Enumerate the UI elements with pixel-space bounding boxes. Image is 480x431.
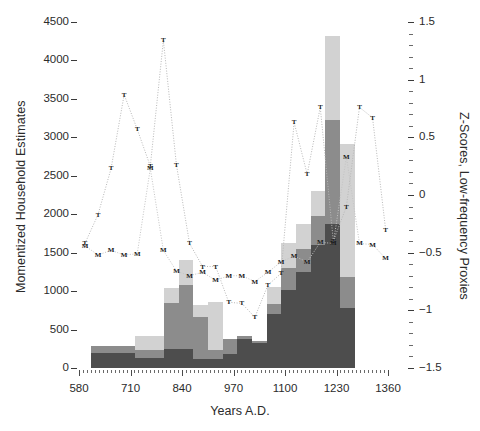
x-axis-minor-tick xyxy=(218,370,219,373)
x-axis-minor-tick xyxy=(142,370,143,373)
x-axis-minor-tick xyxy=(119,370,120,373)
x-axis-minor-tick xyxy=(245,370,246,373)
proxy-marker-M: M xyxy=(225,272,232,279)
y-axis-right-minor-tick xyxy=(409,230,413,231)
y-axis-right-tick-label: −1.5 xyxy=(419,361,465,373)
y-axis-right-tick-mark xyxy=(408,22,414,23)
y-axis-right-minor-tick xyxy=(409,207,413,208)
proxy-marker-T: T xyxy=(134,126,141,133)
x-axis-tick-mark xyxy=(79,370,80,376)
x-axis-minor-tick xyxy=(289,370,290,373)
x-axis-minor-tick xyxy=(293,370,294,373)
proxy-marker-M: M xyxy=(356,240,363,247)
proxy-marker-M: M xyxy=(81,242,88,249)
y-axis-left-tick-label: 4500 xyxy=(23,15,69,27)
x-axis-tick-label: 970 xyxy=(211,382,257,394)
x-axis-tick-mark xyxy=(388,370,389,376)
proxy-line-M xyxy=(85,157,386,282)
y-axis-right-minor-tick xyxy=(409,160,413,161)
proxy-marker-M: M xyxy=(251,278,258,285)
x-axis-minor-tick xyxy=(368,370,369,373)
x-axis-minor-tick xyxy=(297,370,298,373)
proxy-marker-T: T xyxy=(212,263,219,270)
proxy-marker-M: M xyxy=(199,269,206,276)
x-axis-minor-tick xyxy=(178,370,179,373)
x-axis-tick-label: 710 xyxy=(108,382,154,394)
x-axis-minor-tick xyxy=(372,370,373,373)
x-axis-minor-tick xyxy=(253,370,254,373)
y-axis-left-tick-label: 500 xyxy=(23,323,69,335)
y-axis-right-minor-tick xyxy=(409,68,413,69)
x-axis-minor-tick xyxy=(202,370,203,373)
y-axis-right-tick-mark xyxy=(408,253,414,254)
x-axis-minor-tick xyxy=(103,370,104,373)
y-axis-right-minor-tick xyxy=(409,218,413,219)
x-axis-minor-tick xyxy=(301,370,302,373)
proxy-marker-T: T xyxy=(186,240,193,247)
proxy-marker-T: T xyxy=(304,171,311,178)
x-axis-minor-tick xyxy=(127,370,128,373)
proxy-marker-T: T xyxy=(317,104,324,111)
x-axis-tick-mark xyxy=(285,370,286,376)
x-axis-minor-tick xyxy=(384,370,385,373)
y-axis-right-minor-tick xyxy=(409,241,413,242)
y-axis-left-tick-mark xyxy=(71,253,77,254)
y-axis-left-tick-mark xyxy=(71,137,77,138)
proxy-marker-T: T xyxy=(225,299,232,306)
proxy-marker-M: M xyxy=(278,258,285,265)
y-axis-right-minor-tick xyxy=(409,264,413,265)
x-axis-minor-tick xyxy=(166,370,167,373)
x-axis-tick-label: 840 xyxy=(159,382,205,394)
x-axis-tick-mark xyxy=(131,370,132,376)
y-axis-right-minor-tick xyxy=(409,276,413,277)
proxy-marker-M: M xyxy=(369,241,376,248)
x-axis-tick-mark xyxy=(337,370,338,376)
x-axis-minor-tick xyxy=(107,370,108,373)
y-axis-right-minor-tick xyxy=(409,114,413,115)
x-axis-minor-tick xyxy=(305,370,306,373)
proxy-line-T xyxy=(85,40,386,317)
x-axis-tick-mark xyxy=(234,370,235,376)
x-axis-minor-tick xyxy=(360,370,361,373)
y-axis-right-minor-tick xyxy=(409,57,413,58)
y-axis-right-tick-label: 1.5 xyxy=(419,15,465,27)
y-axis-left-tick-mark xyxy=(71,214,77,215)
x-axis-minor-tick xyxy=(222,370,223,373)
x-axis-minor-tick xyxy=(194,370,195,373)
proxy-marker-M: M xyxy=(160,247,167,254)
plot-area: TTTTTTTTTTTTTTTTTTTTTTTTMMMMMMMMMMMMMMMM… xyxy=(79,22,388,368)
x-axis-minor-tick xyxy=(214,370,215,373)
y-axis-left-tick-label: 2000 xyxy=(23,207,69,219)
x-axis-minor-tick xyxy=(154,370,155,373)
y-axis-right-tick-mark xyxy=(408,80,414,81)
proxy-marker-M: M xyxy=(173,268,180,275)
y-axis-right-tick-label: −1 xyxy=(419,303,465,315)
y-axis-right-minor-tick xyxy=(409,172,413,173)
x-axis-minor-tick xyxy=(265,370,266,373)
proxy-marker-T: T xyxy=(108,165,115,172)
proxy-marker-M: M xyxy=(134,250,141,257)
x-axis-minor-tick xyxy=(257,370,258,373)
x-axis-title: Years A.D. xyxy=(0,404,480,418)
x-axis-minor-tick xyxy=(138,370,139,373)
x-axis-minor-tick xyxy=(226,370,227,373)
y-axis-left-tick-mark xyxy=(71,99,77,100)
x-axis-minor-tick xyxy=(309,370,310,373)
x-axis-tick-label: 1100 xyxy=(262,382,308,394)
x-axis-minor-tick xyxy=(380,370,381,373)
x-axis-minor-tick xyxy=(198,370,199,373)
x-axis-minor-tick xyxy=(364,370,365,373)
y-axis-right-minor-tick xyxy=(409,34,413,35)
y-axis-right-minor-tick xyxy=(409,103,413,104)
proxy-marker-M: M xyxy=(121,251,128,258)
proxy-marker-T: T xyxy=(382,226,389,233)
proxy-marker-M: M xyxy=(304,258,311,265)
y-axis-left-tick-mark xyxy=(71,330,77,331)
y-axis-left-tick-label: 2500 xyxy=(23,169,69,181)
y-axis-right-minor-tick xyxy=(409,149,413,150)
x-axis-minor-tick xyxy=(186,370,187,373)
y-axis-right-tick-mark xyxy=(408,195,414,196)
proxy-marker-T: T xyxy=(251,314,258,321)
y-axis-right-minor-tick xyxy=(409,287,413,288)
x-axis-minor-tick xyxy=(376,370,377,373)
